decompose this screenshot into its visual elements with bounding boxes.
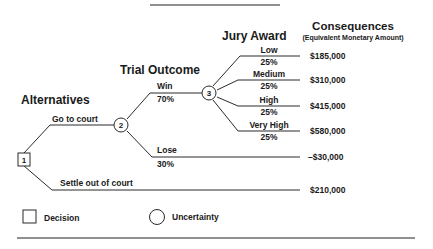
- label-go-to-court: Go to court: [52, 114, 98, 124]
- chance-node-2-label: 2: [119, 121, 124, 130]
- label-settle: Settle out of court: [60, 178, 133, 188]
- chance-node-3-label: 3: [207, 89, 212, 98]
- prob-lose: 30%: [157, 159, 174, 169]
- label-lose: Lose: [157, 145, 177, 155]
- value-lose: –$30,000: [308, 152, 344, 162]
- header-consequences-sub: (Equivalent Monetary Amount): [302, 34, 403, 42]
- prob-high: 25%: [260, 107, 277, 117]
- legend-uncertainty-label: Uncertainty: [172, 212, 219, 222]
- prob-win: 70%: [157, 94, 174, 104]
- decision-node-1-label: 1: [22, 156, 27, 165]
- header-trial-outcome: Trial Outcome: [120, 63, 200, 77]
- value-settle: $210,000: [310, 185, 346, 195]
- decision-tree-diagram: Alternatives Trial Outcome Jury Award Co…: [0, 0, 433, 249]
- label-win: Win: [157, 81, 173, 91]
- value-low: $185,000: [310, 51, 346, 61]
- legend-decision-label: Decision: [44, 213, 79, 223]
- branch-go-to-court: [24, 125, 114, 153]
- value-very-high: $580,000: [310, 126, 346, 136]
- branch-medium: [217, 80, 300, 90]
- label-low: Low: [261, 45, 278, 55]
- label-medium: Medium: [253, 69, 286, 79]
- legend-decision-square-icon: [23, 210, 36, 223]
- header-jury-award: Jury Award: [222, 29, 287, 43]
- value-medium: $310,000: [310, 75, 346, 85]
- legend-uncertainty-circle-icon: [150, 210, 165, 225]
- label-very-high: Very High: [249, 120, 288, 130]
- value-high: $415,000: [310, 101, 346, 111]
- header-alternatives: Alternatives: [21, 93, 90, 107]
- branch-high: [217, 97, 300, 106]
- prob-medium: 25%: [260, 81, 277, 91]
- header-consequences: Consequences: [312, 20, 394, 32]
- prob-low: 25%: [260, 57, 277, 67]
- prob-very-high: 25%: [260, 132, 277, 142]
- label-high: High: [260, 95, 279, 105]
